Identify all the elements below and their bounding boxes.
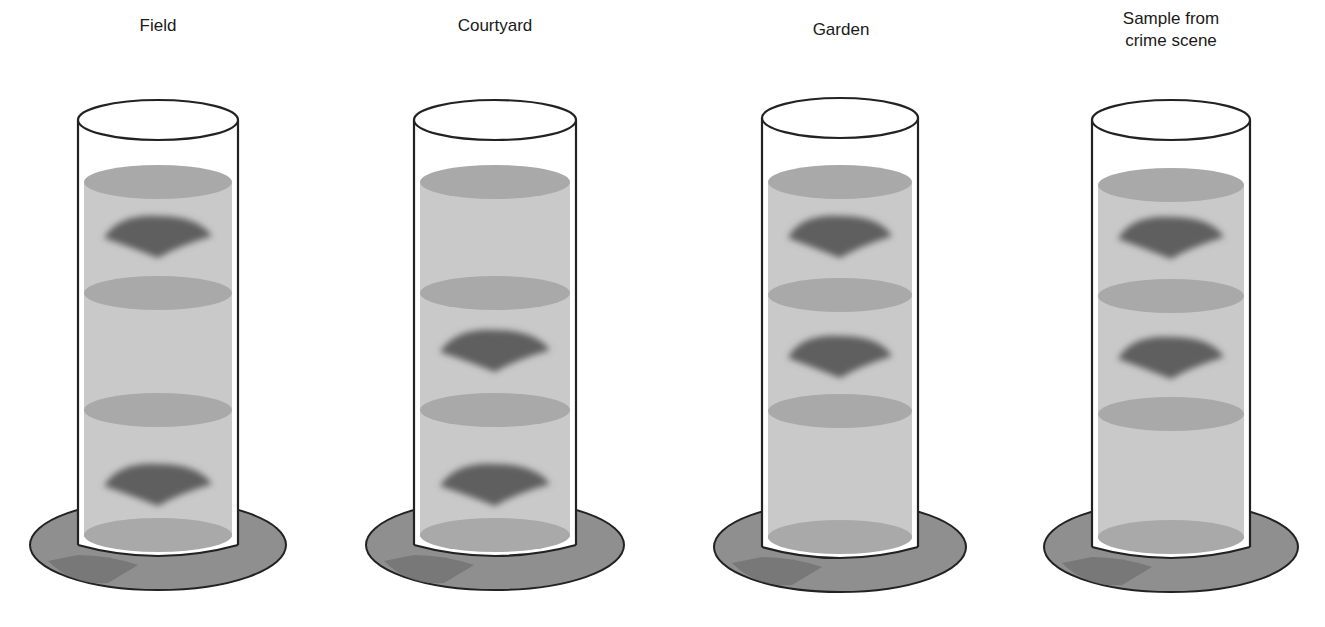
- light-band: [84, 276, 232, 310]
- light-band: [420, 518, 570, 552]
- tube-courtyard: [366, 100, 624, 590]
- light-band: [84, 165, 232, 199]
- light-band: [768, 278, 912, 312]
- light-band: [420, 393, 570, 427]
- light-band: [1098, 168, 1244, 202]
- tube-opening: [762, 98, 918, 138]
- light-band: [768, 394, 912, 428]
- light-band: [768, 520, 912, 554]
- light-band: [768, 165, 912, 199]
- light-band: [1098, 397, 1244, 431]
- tube-crime-scene: [1044, 100, 1298, 592]
- light-band: [1098, 279, 1244, 313]
- light-band: [84, 393, 232, 427]
- light-band: [84, 518, 232, 552]
- light-band: [1098, 520, 1244, 554]
- tubes-diagram: [0, 0, 1325, 627]
- light-band: [420, 165, 570, 199]
- tube-field: [30, 100, 286, 590]
- tube-opening: [78, 100, 238, 140]
- tube-opening: [414, 100, 576, 140]
- tube-garden: [714, 98, 966, 592]
- light-band: [420, 276, 570, 310]
- tube-opening: [1092, 100, 1250, 140]
